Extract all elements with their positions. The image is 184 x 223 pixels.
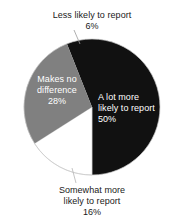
- slice-value-a-lot-more: 50%: [98, 114, 170, 125]
- slice-label-less-likely: Less likely to report 6%: [0, 10, 184, 32]
- slice-label-less-likely-text: Less likely to report: [53, 10, 132, 20]
- slice-label-makes-no-difference-line1: Makes no: [37, 74, 76, 84]
- slice-label-a-lot-more-line1: A lot more: [98, 92, 139, 102]
- slice-label-somewhat-more-line1: Somewhat more: [59, 185, 125, 195]
- slice-value-somewhat-more: 16%: [0, 207, 184, 218]
- slice-value-less-likely: 6%: [0, 21, 184, 32]
- slice-label-somewhat-more-line2: likely to report: [64, 196, 121, 206]
- slice-label-a-lot-more: A lot more likely to report 50%: [98, 92, 170, 125]
- slice-label-makes-no-difference-line2: difference: [37, 85, 77, 95]
- slice-label-somewhat-more: Somewhat more likely to report 16%: [0, 185, 184, 218]
- slice-label-makes-no-difference: Makes no difference 28%: [26, 74, 88, 107]
- slice-label-a-lot-more-line2: likely to report: [98, 103, 155, 113]
- slice-value-makes-no-difference: 28%: [26, 96, 88, 107]
- pie-chart: Less likely to report 6% Somewhat more l…: [0, 0, 184, 223]
